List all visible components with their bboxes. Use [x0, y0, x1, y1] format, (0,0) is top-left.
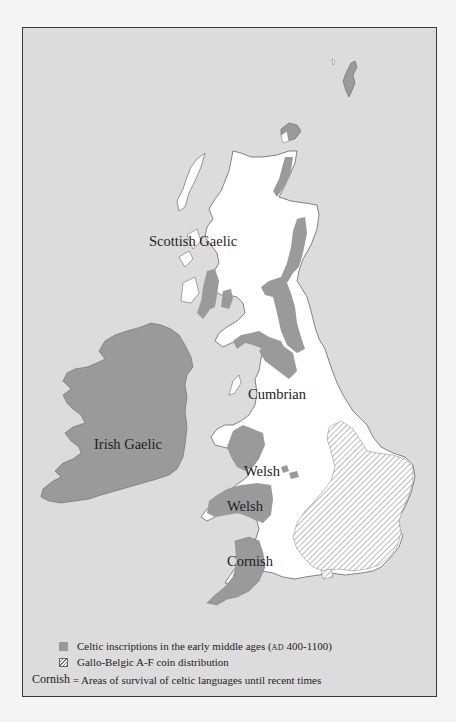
- label-cumbrian: Cumbrian: [248, 387, 306, 402]
- legend-key-example: Cornish: [32, 672, 70, 687]
- map-frame: Scottish Gaelic Irish Gaelic Cumbrian We…: [22, 27, 437, 697]
- map-canvas: [23, 28, 437, 697]
- label-welsh-north: Welsh: [244, 464, 280, 479]
- label-cornish: Cornish: [227, 554, 273, 569]
- legend-text: Celtic inscriptions in the early middle …: [77, 640, 332, 652]
- shetland-islands: [343, 61, 357, 97]
- legend-item-gallo-belgic: Gallo-Belgic A-F coin distribution: [59, 656, 229, 668]
- outer-hebrides: [177, 153, 205, 211]
- legend-item-celtic-inscriptions: Celtic inscriptions in the early middle …: [59, 640, 332, 652]
- celtic-cornwall-devon: [207, 537, 265, 605]
- label-irish-gaelic: Irish Gaelic: [94, 437, 162, 452]
- ireland: [41, 323, 193, 503]
- grey-fill-swatch-icon: [59, 642, 68, 651]
- isle-of-man: [229, 375, 241, 395]
- legend-label-key: Cornish = Areas of survival of celtic la…: [32, 672, 321, 687]
- legend-key-text: = Areas of survival of celtic languages …: [70, 674, 321, 686]
- hatched-swatch-icon: [59, 658, 68, 667]
- label-welsh-south: Welsh: [227, 499, 263, 514]
- legend-text: Gallo-Belgic A-F coin distribution: [77, 656, 229, 668]
- label-scottish-gaelic: Scottish Gaelic: [149, 234, 237, 249]
